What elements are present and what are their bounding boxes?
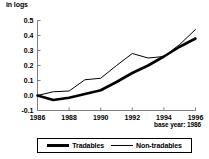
x-axis: 198619881990199219941996 (30, 108, 204, 121)
data-series-layer (38, 30, 196, 101)
y-axis-tick-labels: -0.10.00.10.20.30.40.5 (21, 17, 33, 114)
svg-text:1996: 1996 (188, 114, 204, 121)
svg-text:1994: 1994 (156, 114, 172, 121)
svg-text:0.5: 0.5 (24, 17, 34, 24)
svg-text:0.2: 0.2 (24, 62, 34, 69)
chart-legend: Tradables Non-tradables (37, 138, 192, 153)
x-axis-tick-labels: 198619881990199219941996 (30, 114, 204, 121)
series-line-non-tradables (38, 30, 196, 96)
svg-text:0.1: 0.1 (24, 77, 34, 84)
line-chart-plot: -0.10.00.10.20.30.40.5 19861988199019921… (0, 0, 209, 159)
legend-label-non-tradables: Non-tradables (136, 142, 182, 149)
svg-text:1988: 1988 (61, 114, 77, 121)
series-line-tradables (38, 39, 196, 101)
svg-text:0.4: 0.4 (24, 32, 34, 39)
svg-text:0.3: 0.3 (24, 47, 34, 54)
base-year-note: base year: 1986 (154, 121, 201, 128)
svg-text:0.0: 0.0 (24, 92, 34, 99)
svg-text:1992: 1992 (125, 114, 141, 121)
chart-figure: in logs -0.10.00.10.20.30.40.5 198619881… (0, 0, 209, 159)
svg-text:1986: 1986 (30, 114, 46, 121)
legend-swatch-thick-icon (47, 144, 69, 147)
legend-entry-non-tradables: Non-tradables (111, 142, 182, 149)
y-axis: -0.10.00.10.20.30.40.5 (21, 17, 40, 114)
legend-entry-tradables: Tradables (47, 142, 104, 149)
legend-label-tradables: Tradables (72, 142, 104, 149)
svg-text:1990: 1990 (93, 114, 109, 121)
legend-swatch-thin-icon (111, 145, 133, 146)
